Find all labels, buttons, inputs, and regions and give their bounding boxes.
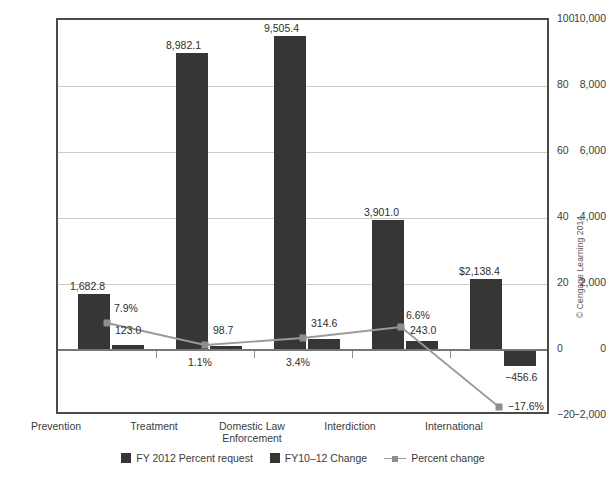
x-tick-2 xyxy=(254,351,255,358)
legend-item-percent-change[interactable]: Percent change xyxy=(384,452,485,464)
x-tick-4 xyxy=(450,351,451,358)
line-marker-international[interactable] xyxy=(496,404,503,411)
chart-figure: 10,000 8,000 6,000 4,000 2,000 0 −2,000 … xyxy=(0,0,606,477)
value-label-fy2012-prevention: 1,682.8 xyxy=(70,281,105,292)
value-label-percent-domestic-law-enforcement: 3.4% xyxy=(286,357,310,368)
value-label-change-domestic-law-enforcement: 314.6 xyxy=(311,318,337,329)
x-axis-label-international: International xyxy=(406,420,502,432)
legend-label-fy2012: FY 2012 Percent request xyxy=(136,452,253,464)
bar-fy2012-domestic-law-enforcement[interactable] xyxy=(274,36,306,349)
bar-change-domestic-law-enforcement[interactable] xyxy=(308,339,340,349)
x-axis-label-prevention: Prevention xyxy=(14,420,98,432)
right-axis-tick-0: 0 xyxy=(557,343,602,354)
value-label-change-prevention: 123.0 xyxy=(115,325,141,336)
value-label-percent-treatment: 1.1% xyxy=(188,357,212,368)
bar-fy2012-international[interactable] xyxy=(470,279,502,349)
value-label-change-interdiction: 243.0 xyxy=(410,325,436,336)
bar-change-prevention[interactable] xyxy=(112,345,144,349)
right-axis-tick-60: 60 xyxy=(557,145,602,156)
chart-legend: FY 2012 Percent request FY10–12 Change P… xyxy=(0,452,606,464)
copyright-notice: © Cengage Learning 2014 xyxy=(575,216,585,318)
right-axis-tick-neg20: −20 xyxy=(557,409,602,420)
value-label-fy2012-domestic-law-enforcement: 9,505.4 xyxy=(264,23,299,34)
zero-baseline xyxy=(58,349,547,351)
legend-label-percent-change: Percent change xyxy=(411,452,485,464)
x-tick-3 xyxy=(352,351,353,358)
legend-swatch-icon-change xyxy=(270,453,280,463)
x-axis-label-domestic-law-enforcement: Domestic Law Enforcement xyxy=(210,420,294,444)
value-label-fy2012-interdiction: 3,901.0 xyxy=(364,207,399,218)
value-label-fy2012-international: $2,138.4 xyxy=(459,266,500,277)
bar-change-interdiction[interactable] xyxy=(406,341,438,349)
value-label-change-international: −456.6 xyxy=(505,372,537,383)
value-label-fy2012-treatment: 8,982.1 xyxy=(166,40,201,51)
legend-item-fy10-12-change[interactable]: FY10–12 Change xyxy=(270,452,367,464)
x-axis-label-interdiction: Interdiction xyxy=(308,420,392,432)
legend-label-change: FY10–12 Change xyxy=(285,452,367,464)
value-label-change-treatment: 98.7 xyxy=(213,325,233,336)
bar-change-treatment[interactable] xyxy=(210,346,242,349)
legend-item-fy2012-percent-request[interactable]: FY 2012 Percent request xyxy=(121,452,253,464)
right-axis-tick-100: 100 xyxy=(557,13,602,24)
x-axis-label-treatment: Treatment xyxy=(112,420,196,432)
value-label-percent-interdiction: 6.6% xyxy=(406,310,430,321)
bar-fy2012-prevention[interactable] xyxy=(78,294,110,349)
value-label-percent-prevention: 7.9% xyxy=(114,303,138,314)
plot-area: 1,682.8 8,982.1 9,505.4 3,901.0 $2,138.4… xyxy=(56,18,549,414)
bar-fy2012-treatment[interactable] xyxy=(176,53,208,349)
legend-swatch-icon-fy2012 xyxy=(121,453,131,463)
value-label-percent-international: −17.6% xyxy=(508,401,544,412)
legend-line-marker-icon xyxy=(384,453,406,463)
bar-change-international[interactable] xyxy=(504,351,536,366)
bar-fy2012-interdiction[interactable] xyxy=(372,220,404,349)
right-axis-tick-80: 80 xyxy=(557,79,602,90)
x-tick-1 xyxy=(156,351,157,358)
